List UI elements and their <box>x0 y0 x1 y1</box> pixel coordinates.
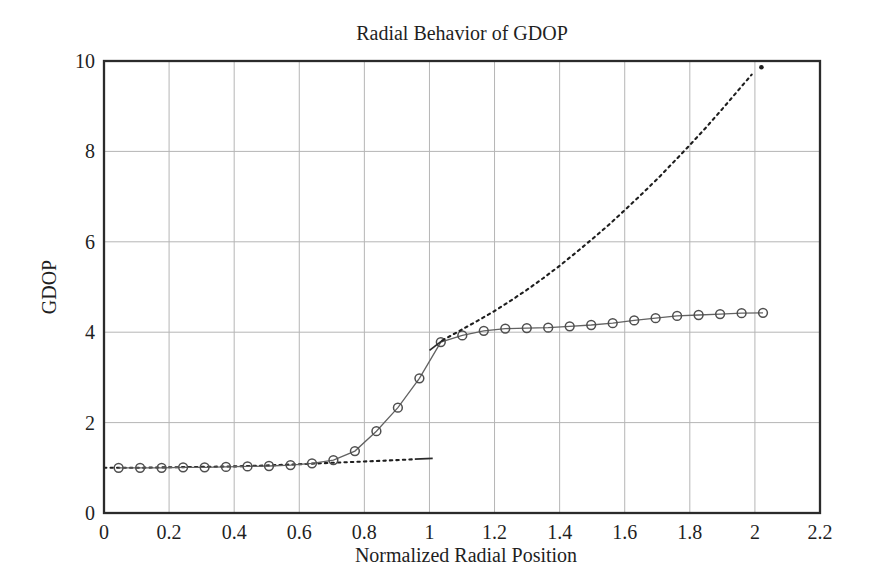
y-axis-label: GDOP <box>38 260 60 314</box>
y-tick-label: 0 <box>85 502 95 524</box>
chart-title: Radial Behavior of GDOP <box>356 22 568 44</box>
gridlines <box>104 61 820 513</box>
x-tick-label: 0.6 <box>287 521 312 543</box>
plot-frame <box>104 61 820 513</box>
gdop-figure: Radial Behavior of GDOP 00.20.40.60.811.… <box>0 0 879 585</box>
y-tick-label: 8 <box>85 140 95 162</box>
x-tick-label: 0.4 <box>222 521 247 543</box>
x-tick-label: 2 <box>750 521 760 543</box>
y-tick-label: 4 <box>85 321 95 343</box>
x-axis-label: Normalized Radial Position <box>355 544 577 566</box>
x-tick-label: 1.6 <box>612 521 637 543</box>
x-tick-label: 1.8 <box>677 521 702 543</box>
series-gdop-isolated-dot <box>759 65 764 70</box>
isolated-dot-marker <box>759 65 764 70</box>
gdop-chart: Radial Behavior of GDOP 00.20.40.60.811.… <box>0 0 879 585</box>
x-tick-label: 2.2 <box>808 521 833 543</box>
gdop-inside-endcap-path <box>415 458 433 459</box>
x-tick-label: 1.4 <box>547 521 572 543</box>
gdop-outside-dotted-path <box>443 75 752 341</box>
series-gdop-circles <box>114 308 767 472</box>
x-tick-label: 1.2 <box>482 521 507 543</box>
series-gdop-outside-dotted <box>443 75 752 341</box>
x-tick-label: 0.8 <box>352 521 377 543</box>
series-gdop-inside-endcap <box>415 458 433 459</box>
x-tick-label: 0.2 <box>157 521 182 543</box>
series-layer <box>104 65 767 472</box>
y-tick-label: 2 <box>85 412 95 434</box>
y-tick-labels: 0246810 <box>75 50 95 524</box>
x-tick-label: 1 <box>424 521 434 543</box>
gdop-circles-path <box>119 313 763 468</box>
y-tick-label: 10 <box>75 50 95 72</box>
x-tick-label: 0 <box>99 521 109 543</box>
x-tick-labels: 00.20.40.60.811.21.41.61.822.2 <box>99 521 833 543</box>
y-tick-label: 6 <box>85 231 95 253</box>
